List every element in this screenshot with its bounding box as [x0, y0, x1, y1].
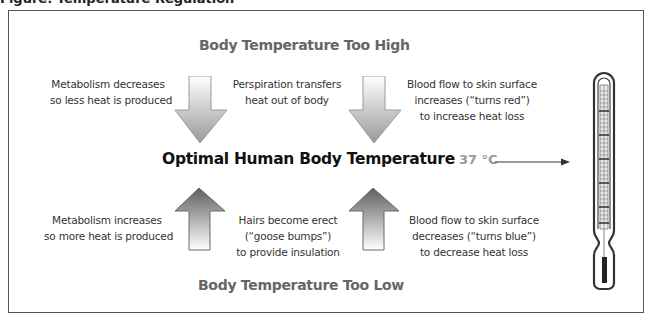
up-arrow-icon [174, 187, 226, 251]
response-line: to provide insulation [230, 244, 346, 260]
up-arrow-icon [348, 187, 400, 251]
response-line: to increase heat loss [400, 108, 544, 124]
heading-too-high: Body Temperature Too High [199, 37, 377, 53]
response-line: heat out of body [226, 92, 348, 108]
response-blood-flow-decreases: Blood flow to skin surface decreases (“t… [404, 212, 544, 260]
response-line: Blood flow to skin surface [404, 212, 544, 228]
response-line: Metabolism decreases [50, 76, 166, 92]
response-line: (“goose bumps”) [230, 228, 346, 244]
response-line: Metabolism increases [44, 212, 170, 228]
response-line: decreases (“turns blue”) [404, 228, 544, 244]
right-arrow-icon [495, 157, 571, 167]
response-line: Blood flow to skin surface [400, 76, 544, 92]
response-blood-flow-increases: Blood flow to skin surface increases (“t… [400, 76, 544, 124]
heading-too-low: Body Temperature Too Low [198, 277, 380, 293]
response-line: Perspiration transfers [226, 76, 348, 92]
response-perspiration: Perspiration transfers heat out of body [226, 76, 348, 108]
response-metabolism-increases: Metabolism increases so more heat is pro… [44, 212, 170, 244]
response-line: to decrease heat loss [404, 244, 544, 260]
optimal-temperature-label: Optimal Human Body Temperature [162, 150, 455, 168]
down-arrow-icon [348, 76, 402, 144]
response-line: increases (“turns red”) [400, 92, 544, 108]
response-metabolism-decreases: Metabolism decreases so less heat is pro… [50, 76, 166, 108]
response-line: Hairs become erect [230, 212, 346, 228]
response-line: so less heat is produced [50, 92, 166, 108]
response-goose-bumps: Hairs become erect (“goose bumps”) to pr… [230, 212, 346, 260]
thermometer-icon [589, 71, 619, 293]
temperature-value: 37 °C [459, 152, 498, 167]
response-line: so more heat is produced [44, 228, 170, 244]
down-arrow-icon [174, 76, 228, 144]
clipped-figure-caption: Figure: Temperature Regulation [0, 0, 234, 6]
